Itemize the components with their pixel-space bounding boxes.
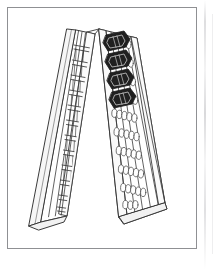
figure-root xyxy=(0,0,224,269)
left-panel-ladder-grid xyxy=(29,29,95,230)
scan-edge-artifact xyxy=(204,0,206,269)
scan-edge-artifact-secondary xyxy=(212,14,213,254)
a-frame-rack-drawing xyxy=(7,7,197,249)
right-panel-oval-grid xyxy=(99,29,167,224)
